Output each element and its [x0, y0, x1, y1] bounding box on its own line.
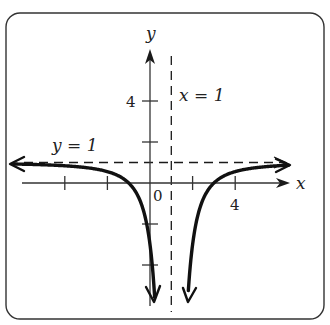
- y-tick-label-4: 4: [126, 93, 136, 111]
- origin-label: 0: [153, 187, 163, 205]
- y-axis-label: y: [145, 23, 156, 43]
- vertical-asymptote-label: x = 1: [179, 85, 224, 105]
- x-tick-label-4: 4: [230, 196, 240, 214]
- graph-figure: y x 0 4 4 x = 1 y = 1: [0, 0, 330, 325]
- horizontal-asymptote-label: y = 1: [51, 135, 97, 155]
- x-axis-label: x: [296, 173, 306, 193]
